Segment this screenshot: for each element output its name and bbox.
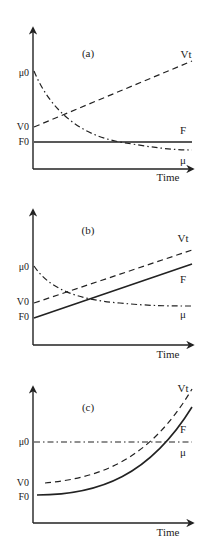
panel-label: (a) [82,47,95,60]
y-tick-label: V0 [17,296,29,307]
curve-label: μ [180,154,186,166]
y-tick-label: V0 [17,477,29,488]
x-axis-label: Time [157,526,180,537]
y-tick-label: F0 [18,311,29,322]
curve-label: F [180,124,186,136]
panel-label: (c) [82,401,95,414]
x-axis-label: Time [157,171,180,183]
y-tick-label: F0 [18,136,29,147]
curve-label: μ [180,308,186,320]
panels-group: VtFμμ0V0F0(a)TimeVtFμμ0V0F0(b)TimeVtFμμ0… [17,28,193,537]
panel-a: VtFμμ0V0F0(a)Time [17,28,193,183]
curve-mu [34,71,192,150]
panel-c: VtFμμ0V0F0(c)Time [17,382,193,537]
curve-label: Vt [178,382,189,394]
curve-f [34,264,192,318]
curve-label: Vt [178,232,189,244]
panel-b: VtFμμ0V0F0(b)Time [17,210,193,360]
y-tick-label: μ0 [19,67,29,78]
curve-label: Vt [181,48,192,60]
curve-vt [45,389,192,483]
y-tick-label: μ0 [19,436,29,447]
curve-label: μ [180,446,186,458]
curve-label: F [180,273,186,285]
panel-label: (b) [82,224,95,237]
y-tick-label: μ0 [19,261,29,272]
y-tick-label: V0 [17,121,29,132]
y-tick-label: F0 [18,491,29,502]
curve-label: F [180,423,186,435]
curve-vt [34,61,192,127]
curve-vt [34,250,192,303]
x-axis-label: Time [157,348,180,360]
diagram-figure: VtFμμ0V0F0(a)TimeVtFμμ0V0F0(b)TimeVtFμμ0… [0,0,213,537]
